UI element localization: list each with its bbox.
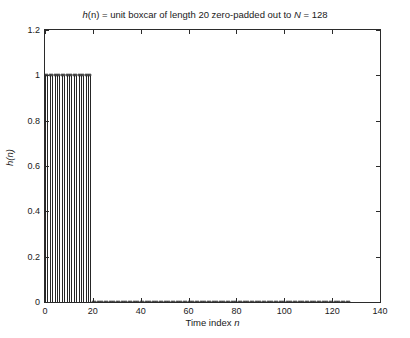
y-tick-mark — [45, 302, 49, 303]
title-suffix: = 128 — [301, 9, 328, 20]
y-tick-mark — [376, 121, 380, 122]
y-tick-label: 0.6 — [27, 161, 40, 172]
stem-line — [57, 75, 58, 302]
y-tick-label: 0 — [35, 297, 40, 308]
stem-line — [45, 75, 46, 302]
y-tick-mark — [376, 257, 380, 258]
y-tick-mark — [45, 75, 49, 76]
y-tick-mark — [45, 121, 49, 122]
y-tick-label: 0.4 — [27, 206, 40, 217]
stem-line — [88, 75, 89, 302]
plot-box — [44, 29, 381, 303]
stem-line — [74, 75, 75, 302]
stem-line — [83, 75, 84, 302]
x-tick-mark — [380, 298, 381, 302]
x-tick-mark — [189, 298, 190, 302]
y-tick-mark — [376, 302, 380, 303]
x-tick-label: 0 — [42, 306, 47, 317]
stem-line — [47, 75, 48, 302]
x-axis-label-text: Time index — [185, 317, 234, 328]
y-tick-label: 1 — [35, 70, 40, 81]
stem-line — [79, 75, 80, 302]
x-tick-mark — [93, 30, 94, 34]
stem-baseline — [45, 302, 349, 303]
x-tick-label: 80 — [231, 306, 241, 317]
x-tick-mark — [332, 298, 333, 302]
stem-line — [67, 75, 68, 302]
x-tick-mark — [141, 30, 142, 34]
stem-line — [55, 75, 56, 302]
x-tick-label: 120 — [325, 306, 340, 317]
title-n-symbol: N — [294, 9, 301, 20]
plot-area — [45, 30, 380, 302]
stem-line — [50, 75, 51, 302]
x-tick-mark — [93, 298, 94, 302]
stem-line — [62, 75, 63, 302]
y-tick-mark — [45, 257, 49, 258]
stem-line — [69, 75, 70, 302]
title-argument: (n) — [88, 9, 100, 20]
y-tick-mark — [45, 211, 49, 212]
stem-line — [71, 75, 72, 302]
y-tick-mark — [45, 30, 49, 31]
x-axis-label: Time index n — [44, 317, 381, 329]
x-tick-mark — [189, 30, 190, 34]
stem-marker — [347, 301, 350, 304]
title-text: = unit boxcar of length 20 zero-padded o… — [99, 9, 294, 20]
x-tick-label: 100 — [277, 306, 292, 317]
y-tick-mark — [376, 30, 380, 31]
y-tick-mark — [376, 166, 380, 167]
x-tick-mark — [380, 30, 381, 34]
y-axis-label: h(n) — [4, 149, 16, 166]
stem-line — [52, 75, 53, 302]
y-tick-label: 0.8 — [27, 115, 40, 126]
x-tick-mark — [284, 30, 285, 34]
stem-line — [86, 75, 87, 302]
stem-plot-figure: h(n) = unit boxcar of length 20 zero-pad… — [0, 0, 410, 338]
x-tick-mark — [141, 298, 142, 302]
x-tick-mark — [284, 298, 285, 302]
stem-marker — [89, 74, 92, 77]
stem-line — [59, 75, 60, 302]
stem-line — [90, 75, 91, 302]
x-tick-mark — [236, 298, 237, 302]
x-tick-mark — [236, 30, 237, 34]
x-axis-label-symbol: n — [234, 317, 239, 328]
y-tick-mark — [376, 75, 380, 76]
y-tick-mark — [45, 166, 49, 167]
y-tick-mark — [376, 211, 380, 212]
y-axis-label-text: h(n) — [4, 149, 15, 166]
x-tick-label: 20 — [88, 306, 98, 317]
x-tick-mark — [332, 30, 333, 34]
y-tick-label: 1.2 — [27, 25, 40, 36]
stem-line — [64, 75, 65, 302]
y-tick-label: 0.2 — [27, 251, 40, 262]
x-tick-label: 140 — [372, 306, 387, 317]
x-tick-label: 60 — [184, 306, 194, 317]
chart-title: h(n) = unit boxcar of length 20 zero-pad… — [0, 9, 410, 21]
stem-line — [81, 75, 82, 302]
stem-line — [76, 75, 77, 302]
x-tick-label: 40 — [136, 306, 146, 317]
